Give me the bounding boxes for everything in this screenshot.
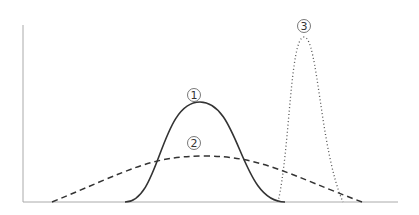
svg-text:1: 1 — [191, 89, 198, 102]
distribution-chart: 1 2 3 — [0, 0, 419, 215]
label-1: 1 — [188, 89, 201, 103]
curve-3-dotted — [278, 37, 343, 202]
svg-text:2: 2 — [191, 137, 198, 150]
svg-text:3: 3 — [301, 20, 308, 33]
label-2: 2 — [188, 137, 201, 151]
curve-2-dashed — [52, 156, 362, 202]
label-3: 3 — [298, 20, 311, 34]
curve-1-solid — [125, 102, 285, 202]
